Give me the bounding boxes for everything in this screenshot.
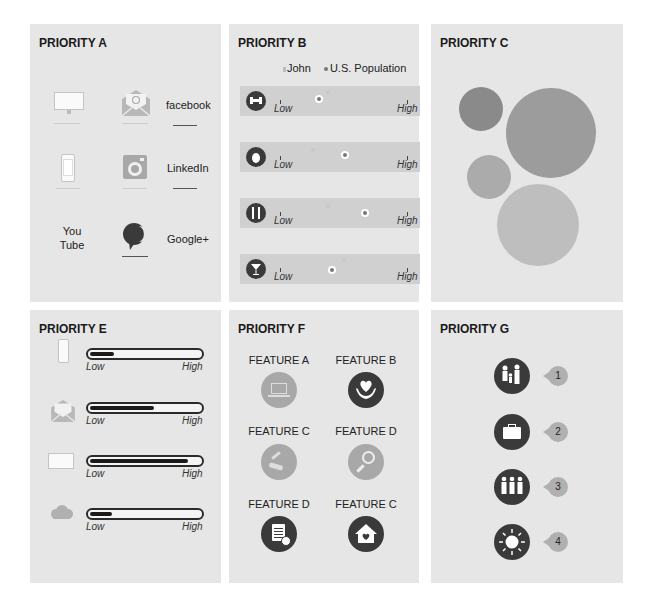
- bubble-small-light: [467, 155, 511, 199]
- high-label: High: [182, 361, 203, 372]
- feature-label: FEATURE C: [239, 425, 319, 437]
- panel-priority-a: PRIORITY A facebook LinkedIn You Tube Go…: [30, 24, 221, 302]
- high-label: High: [182, 521, 203, 532]
- panel-priority-b: PRIORITY B John U.S. Population Low High…: [229, 24, 419, 302]
- feature-label: FEATURE D: [326, 425, 406, 437]
- family-icon: [494, 358, 530, 394]
- population-legend-marker-icon: [324, 67, 328, 71]
- invoice-icon[interactable]: [261, 516, 297, 552]
- youtube-line2: Tube: [58, 238, 86, 252]
- panel-title: PRIORITY A: [39, 36, 107, 50]
- high-label: High: [397, 103, 418, 114]
- population-marker: [361, 209, 369, 217]
- john-marker: [342, 258, 346, 262]
- heart-hands-icon[interactable]: [348, 372, 384, 408]
- instagram-icon[interactable]: [123, 155, 147, 179]
- bar-fill: [90, 406, 154, 410]
- population-marker: [315, 95, 323, 103]
- usage-bar-desktop: [86, 455, 204, 467]
- facebook-label[interactable]: facebook: [166, 99, 211, 111]
- briefcase-icon: [494, 414, 530, 450]
- low-label: Low: [86, 521, 104, 532]
- bar-fill: [90, 352, 114, 356]
- usage-bar-phone: [86, 348, 204, 360]
- low-label: Low: [274, 103, 292, 114]
- panel-title: PRIORITY E: [39, 322, 107, 336]
- high-label: High: [397, 159, 418, 170]
- chart-legend: John U.S. Population: [283, 62, 406, 74]
- chart-row-diet: Low High: [240, 142, 420, 172]
- rank-badge: 2: [548, 422, 568, 442]
- bubble-small-dark: [459, 87, 503, 131]
- group-icon: [494, 469, 530, 505]
- panel-priority-c: PRIORITY C: [431, 24, 623, 302]
- linkedin-label[interactable]: LinkedIn: [167, 162, 209, 174]
- desktop-icon: [48, 453, 74, 469]
- email-icon[interactable]: [122, 90, 150, 116]
- cloud-icon: [48, 505, 74, 523]
- low-label: Low: [86, 468, 104, 479]
- bubble-medium: [497, 184, 579, 266]
- search-person-icon[interactable]: [348, 444, 384, 480]
- chart-row-drinks: Low High: [240, 254, 420, 284]
- high-label: High: [182, 468, 203, 479]
- low-label: Low: [274, 159, 292, 170]
- bar-fill: [90, 459, 188, 463]
- john-legend-label: John: [287, 62, 311, 74]
- low-label: Low: [86, 415, 104, 426]
- panel-title: PRIORITY F: [238, 322, 305, 336]
- tools-icon[interactable]: [261, 444, 297, 480]
- googleplus-label[interactable]: Google+: [167, 233, 209, 245]
- feature-label: FEATURE C: [326, 498, 406, 510]
- panel-title: PRIORITY C: [440, 36, 508, 50]
- linkedin-underline: [173, 188, 197, 189]
- rank-badge: 3: [548, 477, 568, 497]
- phone-icon[interactable]: [61, 154, 75, 182]
- chat-underline: [122, 256, 148, 257]
- john-legend-marker-icon: [283, 67, 286, 72]
- utensils-icon: [246, 203, 266, 223]
- desktop-underline: [54, 123, 80, 124]
- panel-title: PRIORITY B: [238, 36, 306, 50]
- instagram-underline: [123, 188, 147, 189]
- youtube-label[interactable]: You Tube: [58, 224, 86, 252]
- desktop-icon[interactable]: [54, 92, 84, 114]
- phone-underline: [56, 188, 80, 189]
- bubble-large: [506, 88, 596, 178]
- chart-row-dining: Low High: [240, 198, 420, 228]
- panel-priority-e: PRIORITY E Low High Low High Low High Lo…: [30, 310, 221, 583]
- usage-bar-email: [86, 402, 204, 414]
- usage-bar-cloud: [86, 508, 204, 520]
- population-legend-label: U.S. Population: [330, 62, 406, 74]
- population-marker: [328, 266, 336, 274]
- feature-label: FEATURE D: [239, 498, 319, 510]
- john-marker: [326, 204, 330, 208]
- bar-fill: [90, 512, 112, 516]
- low-label: Low: [86, 361, 104, 372]
- youtube-line1: You: [58, 224, 86, 238]
- email-underline: [122, 123, 148, 124]
- home-heart-icon[interactable]: [348, 516, 384, 552]
- chat-bubble-icon[interactable]: [120, 222, 150, 252]
- panel-title: PRIORITY G: [440, 322, 509, 336]
- rank-badge: 4: [548, 532, 568, 552]
- dumbbell-icon: [246, 91, 266, 111]
- computer-devices-icon[interactable]: [261, 372, 297, 408]
- chart-row-fitness: Low High: [240, 86, 420, 116]
- low-label: Low: [274, 271, 292, 282]
- feature-label: FEATURE B: [326, 354, 406, 366]
- population-marker: [341, 151, 349, 159]
- feature-label: FEATURE A: [239, 354, 319, 366]
- john-marker: [311, 148, 315, 152]
- high-label: High: [397, 271, 418, 282]
- rank-badge: 1: [548, 366, 568, 386]
- low-label: Low: [274, 215, 292, 226]
- phone-icon: [58, 339, 69, 363]
- sun-icon: [494, 524, 530, 560]
- email-icon: [51, 400, 75, 426]
- apple-icon: [246, 147, 266, 167]
- panel-priority-g: PRIORITY G 1 2 3 4: [431, 310, 623, 583]
- john-marker: [326, 90, 330, 94]
- facebook-underline: [173, 125, 197, 126]
- panel-priority-f: PRIORITY F FEATURE A FEATURE B FEATURE C…: [229, 310, 419, 583]
